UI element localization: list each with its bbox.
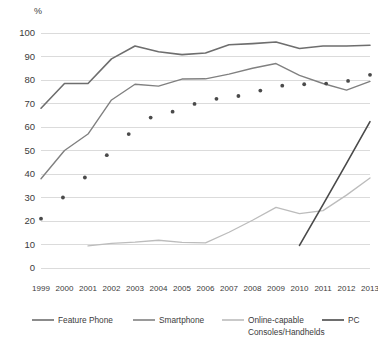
series-group xyxy=(39,42,372,246)
y-axis-tick-label: 80 xyxy=(24,74,35,85)
x-axis-tick-label: 2007 xyxy=(220,284,238,293)
y-axis-tick-label: 100 xyxy=(19,27,35,38)
legend-label-3: PC xyxy=(348,315,360,325)
series-point-pc xyxy=(171,110,175,114)
y-axis-tick-label: 20 xyxy=(24,215,35,226)
x-axis-tick-label: 2012 xyxy=(338,284,356,293)
series-point-pc xyxy=(105,153,109,157)
x-axis-tick-label: 2008 xyxy=(244,284,262,293)
series-point-pc xyxy=(280,84,284,88)
x-axis-tick-label: 2013 xyxy=(361,284,378,293)
y-axis-tick-label: 10 xyxy=(24,239,35,250)
legend-label-1: Smartphone xyxy=(159,315,205,325)
x-axis-tick-label: 2011 xyxy=(314,284,332,293)
series-point-pc xyxy=(258,89,262,93)
x-axis-tick-label: 2003 xyxy=(126,284,144,293)
series-point-pc xyxy=(346,79,350,83)
series-point-pc xyxy=(149,116,153,120)
series-line-online-capable-consoles-handhelds xyxy=(88,178,370,246)
series-point-pc xyxy=(193,102,197,106)
chart-svg: 0102030405060708090100 19992000200120022… xyxy=(0,0,378,348)
x-axis-tick-label: 2004 xyxy=(150,284,168,293)
x-axis-tick-label: 2002 xyxy=(103,284,121,293)
y-axis-tick-label: 30 xyxy=(24,192,35,203)
x-axis-tick-label: 2000 xyxy=(56,284,74,293)
series-point-pc xyxy=(127,132,131,136)
x-axis-ticks-group: 1999200020012002200320042005200620072008… xyxy=(32,284,378,293)
x-axis-tick-label: 2006 xyxy=(197,284,215,293)
chart-container: % 0102030405060708090100 199920002001200… xyxy=(0,0,378,348)
x-axis-tick-label: 2005 xyxy=(173,284,191,293)
y-axis-tick-label: 70 xyxy=(24,98,35,109)
series-line-pc xyxy=(300,122,371,246)
series-point-pc xyxy=(368,73,372,77)
series-line-feature-phone xyxy=(41,42,370,108)
series-point-pc xyxy=(302,82,306,86)
series-point-pc xyxy=(61,196,65,200)
legend-group: Feature PhoneSmartphoneOnline-capableCon… xyxy=(32,315,360,337)
y-axis-tick-label: 90 xyxy=(24,51,35,62)
gridlines-group xyxy=(41,33,370,268)
plot-area: 0102030405060708090100 19992000200120022… xyxy=(0,0,378,348)
x-axis-tick-label: 2009 xyxy=(267,284,285,293)
series-point-pc xyxy=(39,217,43,221)
y-axis-tick-label: 60 xyxy=(24,121,35,132)
legend-label-2-line2: Consoles/Handhelds xyxy=(248,327,325,337)
x-axis-tick-label: 2001 xyxy=(79,284,97,293)
x-axis-tick-label: 1999 xyxy=(32,284,50,293)
y-axis-tick-label: 50 xyxy=(24,145,35,156)
y-axis-ticks-group: 0102030405060708090100 xyxy=(19,27,35,273)
series-point-pc xyxy=(324,82,328,86)
y-axis-tick-label: 40 xyxy=(24,168,35,179)
y-axis-tick-label: 0 xyxy=(30,262,35,273)
series-point-pc xyxy=(215,97,219,101)
legend-label-2: Online-capable xyxy=(248,315,304,325)
legend-label-0: Feature Phone xyxy=(58,315,113,325)
x-axis-tick-label: 2010 xyxy=(291,284,309,293)
series-point-pc xyxy=(237,94,241,98)
series-point-pc xyxy=(83,176,87,180)
